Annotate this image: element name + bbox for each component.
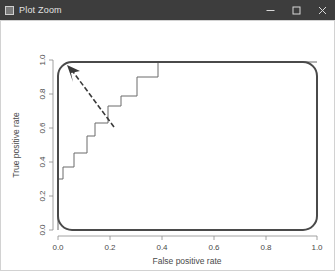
y-tick-label: 0.6: [38, 122, 47, 134]
title-bar[interactable]: Plot Zoom: [0, 0, 335, 20]
y-tick-label: 0.8: [38, 88, 47, 100]
y-tick-label: 0.0: [38, 224, 47, 236]
plot-client-area: 0.0 0.2 0.4 0.6 0.8 1.0 True positive ra…: [0, 20, 335, 271]
y-tick-label: 0.2: [38, 190, 47, 202]
zoom-highlight-box: [58, 62, 317, 230]
roc-plot: 0.0 0.2 0.4 0.6 0.8 1.0 True positive ra…: [1, 21, 334, 270]
close-icon: [317, 5, 328, 16]
x-tick-labels: 0.0 0.2 0.4 0.6 0.8 1.0: [52, 243, 323, 252]
y-tick-label: 0.4: [38, 156, 47, 168]
y-axis: [49, 60, 53, 230]
x-tick-label: 0.6: [208, 243, 220, 252]
window-controls: [257, 0, 335, 20]
y-tick-labels: 0.0 0.2 0.4 0.6 0.8 1.0: [38, 54, 47, 236]
maximize-icon: [291, 5, 302, 16]
window-icon: [5, 6, 14, 15]
minimize-button[interactable]: [257, 0, 283, 20]
x-axis: [58, 236, 317, 240]
x-axis-label: False positive rate: [153, 256, 222, 266]
minimize-icon: [265, 5, 276, 16]
corner-arrow: [67, 65, 114, 127]
window-title: Plot Zoom: [19, 0, 62, 20]
x-tick-label: 0.8: [260, 243, 272, 252]
maximize-button[interactable]: [283, 0, 309, 20]
plot-zoom-window: Plot Zoom: [0, 0, 335, 271]
y-axis-label: True positive rate: [11, 112, 21, 178]
x-tick-label: 0.4: [156, 243, 168, 252]
y-tick-label: 1.0: [38, 54, 47, 66]
x-tick-label: 0.2: [104, 243, 116, 252]
x-tick-label: 1.0: [311, 243, 323, 252]
roc-curve: [58, 62, 317, 230]
close-button[interactable]: [309, 0, 335, 20]
x-tick-label: 0.0: [52, 243, 64, 252]
